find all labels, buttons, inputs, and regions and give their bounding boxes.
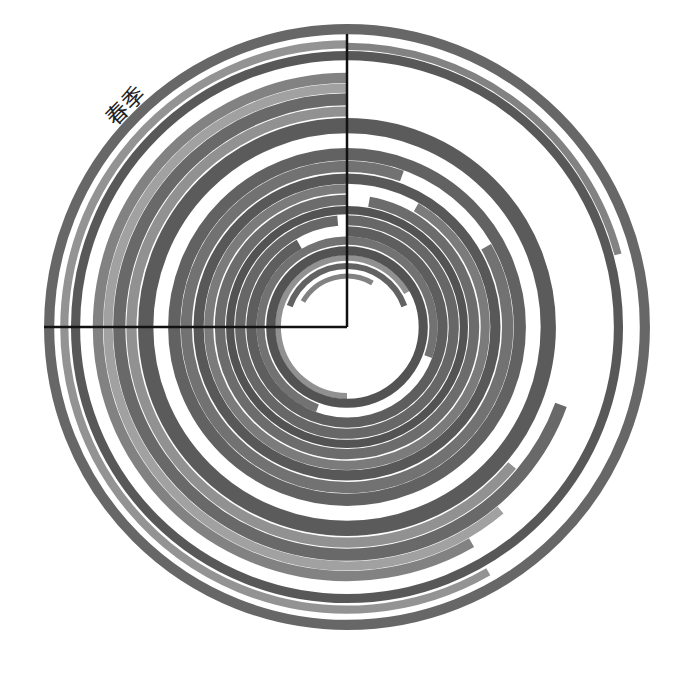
angular-label: 春季: [101, 81, 150, 130]
arc-bar-r1: [303, 276, 372, 301]
radial-bar-chart: 春季: [0, 0, 695, 677]
angular-labels: 春季: [101, 81, 150, 130]
